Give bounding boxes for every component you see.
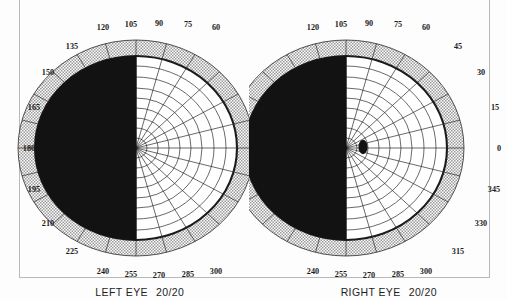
- right-eye-caption: RIGHT EYE20/20: [249, 274, 502, 300]
- tick-225: 225: [66, 247, 78, 256]
- blind-spot: [358, 140, 367, 154]
- tick-330: 330: [475, 219, 487, 228]
- tick-45: 45: [454, 42, 462, 51]
- tick-195: 195: [28, 185, 40, 194]
- left-eye-acuity: 20/20: [156, 286, 184, 298]
- tick-315: 315: [452, 247, 464, 256]
- tick-345: 345: [488, 185, 500, 194]
- right-eye-label: RIGHT EYE: [341, 286, 401, 298]
- tick-165: 165: [28, 103, 40, 112]
- left-eye-plot: 120 105 90 75 60 135 150 165 180 195 210…: [0, 12, 253, 294]
- tick-105: 105: [335, 20, 347, 29]
- right-eye-plot: 120 105 90 75 60 45 30 15 0 345 330 315 …: [249, 12, 502, 294]
- right-field-group: [249, 40, 464, 256]
- tick-120: 120: [307, 23, 319, 32]
- tick-135: 135: [66, 42, 78, 51]
- tick-60: 60: [212, 23, 220, 32]
- tick-120: 120: [97, 23, 109, 32]
- right-eye-polar-svg: 120 105 90 75 60 45 30 15 0 345 330 315 …: [249, 12, 502, 294]
- left-eye-caption: LEFT EYE20/20: [0, 274, 253, 300]
- left-eye-label: LEFT EYE: [95, 286, 148, 298]
- tick-150: 150: [42, 68, 54, 77]
- tick-105: 105: [125, 20, 137, 29]
- tick-210: 210: [42, 219, 54, 228]
- tick-75: 75: [394, 20, 402, 29]
- tick-0: 0: [497, 144, 501, 153]
- tick-90: 90: [155, 19, 163, 28]
- tick-90: 90: [365, 19, 373, 28]
- right-eye-acuity: 20/20: [409, 286, 437, 298]
- tick-75: 75: [184, 20, 192, 29]
- tick-60: 60: [422, 23, 430, 32]
- tick-30: 30: [477, 68, 485, 77]
- tick-15: 15: [491, 103, 499, 112]
- tick-180: 180: [23, 144, 35, 153]
- left-eye-polar-svg: 120 105 90 75 60 135 150 165 180 195 210…: [0, 12, 253, 294]
